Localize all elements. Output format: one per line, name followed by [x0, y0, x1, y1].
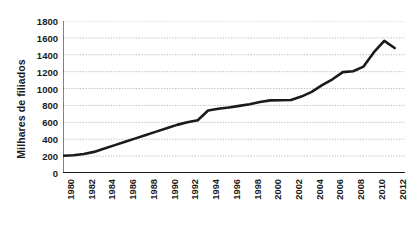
plot-svg [63, 21, 405, 173]
x-tick-label: 2012 [399, 179, 408, 200]
x-tick-label: 1994 [212, 179, 221, 200]
gridlines [63, 21, 405, 156]
x-tick-label: 1982 [88, 179, 97, 200]
x-tick-label: 2004 [316, 179, 325, 200]
x-tick-label: 1992 [191, 179, 200, 200]
y-tick-label: 1800 [24, 17, 58, 27]
y-tick-label: 1400 [24, 51, 58, 61]
y-tick-label: 800 [24, 101, 58, 111]
data-line-1 [63, 41, 395, 156]
x-tick-label: 1996 [233, 179, 242, 200]
x-tick-label: 2008 [357, 179, 366, 200]
data-series-group [63, 41, 395, 156]
x-tick-label: 1980 [67, 179, 76, 200]
x-tick-label: 1990 [171, 179, 180, 200]
x-tick-label: 1988 [150, 179, 159, 200]
x-tick-label: 1998 [254, 179, 263, 200]
y-tick-label: 1600 [24, 34, 58, 44]
y-tick-label: 1200 [24, 68, 58, 78]
x-tick-label: 1986 [129, 179, 138, 200]
x-tick-label: 2002 [295, 179, 304, 200]
y-tick-label: 600 [24, 118, 58, 128]
line-chart: Milhares de filiados 0200400600800100012… [0, 0, 419, 225]
y-tick-label: 1000 [24, 85, 58, 95]
axis-lines [63, 21, 405, 173]
y-tick-label: 400 [24, 135, 58, 145]
y-tick-label: 200 [24, 152, 58, 162]
plot-area [63, 21, 405, 173]
y-tick-label: 0 [24, 169, 58, 179]
x-axis-tick-labels: 1980198219841986198819901992199419961998… [63, 179, 405, 225]
x-tick-label: 1984 [108, 179, 117, 200]
x-tick-label: 2006 [336, 179, 345, 200]
x-tick-label: 2010 [378, 179, 387, 200]
x-tick-label: 2000 [274, 179, 283, 200]
y-axis-tick-labels: 020040060080010001200140016001800 [20, 21, 58, 173]
